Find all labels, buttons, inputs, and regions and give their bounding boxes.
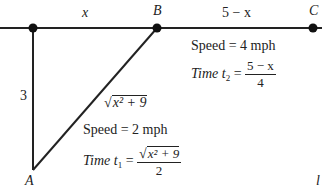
segment-x-label: x <box>82 6 88 20</box>
time-t2-prefix: Time t <box>191 66 226 81</box>
time-t1-numerator: √x² + 9 <box>137 146 181 163</box>
time-t2-formula: Time t2 = 5 − x 4 <box>191 59 276 90</box>
point-b-dot <box>153 24 162 33</box>
point-c-dot <box>309 24 318 33</box>
corner-mark: l <box>316 174 320 188</box>
time-t2-sub: 2 <box>226 73 231 83</box>
time-t1-sub: 1 <box>118 160 123 170</box>
point-a-label: A <box>25 174 34 188</box>
segment-5-minus-x-label: 5 − x <box>222 6 251 20</box>
vertical-3-label: 3 <box>20 89 27 103</box>
point-c-label: C <box>309 4 318 18</box>
time-t2-numerator: 5 − x <box>245 59 276 75</box>
sqrt-icon: √ <box>139 146 147 161</box>
time-t1-formula: Time t1 = √x² + 9 2 <box>83 146 181 178</box>
time-t2-fraction: 5 − x 4 <box>245 59 276 90</box>
time-t1-fraction: √x² + 9 2 <box>137 146 181 178</box>
hypotenuse-label: √x² + 9 <box>104 95 147 110</box>
time-t1-denominator: 2 <box>137 163 181 178</box>
point-left-dot <box>29 24 38 33</box>
time-t2-denominator: 4 <box>245 75 276 90</box>
speed-2-label: Speed = 2 mph <box>83 123 168 137</box>
point-b-label: B <box>153 4 162 18</box>
time-t1-prefix: Time t <box>83 153 118 168</box>
sqrt-icon: √ <box>104 95 112 110</box>
speed-4-label: Speed = 4 mph <box>191 39 276 53</box>
